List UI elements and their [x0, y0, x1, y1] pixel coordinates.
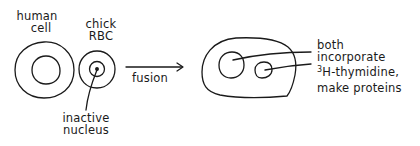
inactive-nucleus-label-line2: nucleus — [60, 124, 112, 136]
fused-cell-icon — [202, 38, 311, 98]
annotation-line3-text: H-thymidine, — [322, 65, 399, 79]
human-cell-label-line2: cell — [16, 22, 58, 34]
inactive-nucleus-label: inactive nucleus — [60, 112, 112, 136]
human-cell-nucleus — [32, 56, 60, 84]
human-cell-label: human cell — [16, 10, 58, 34]
annotation-line2: incorporate — [317, 51, 402, 63]
fused-human-nucleus — [219, 52, 244, 78]
fusion-label: fusion — [132, 72, 168, 84]
annotation-line3: 3H-thymidine, — [317, 65, 402, 79]
right-arrow-icon — [126, 63, 183, 71]
annotation-line4: make proteins — [317, 81, 402, 95]
cell-fusion-diagram: human cell chick RBC inactive nucleus fu… — [0, 0, 420, 146]
human-cell-membrane — [15, 42, 74, 98]
human-cell-icon — [15, 42, 74, 98]
chick-rbc-label-line2: RBC — [84, 30, 118, 42]
inactive-nucleus-pointer — [86, 70, 97, 110]
chick-rbc-icon — [79, 51, 115, 110]
fused-chick-nucleus — [255, 62, 272, 78]
pointer-line-human-nucleus — [233, 52, 311, 60]
chick-rbc-label: chick RBC — [84, 18, 118, 42]
fused-cell-annotation: both incorporate 3H-thymidine, make prot… — [317, 40, 402, 95]
